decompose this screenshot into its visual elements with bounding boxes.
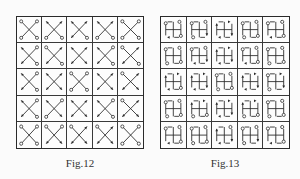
x-cross-glyph-icon (42, 96, 66, 121)
figure-12 (16, 16, 144, 149)
x-cross-glyph-icon (118, 96, 143, 121)
fig12-cell (93, 43, 118, 69)
fig12-cell (42, 122, 67, 148)
fig12-cell (42, 96, 67, 122)
fig12-cell (42, 17, 67, 43)
figure-13-grid (160, 16, 290, 149)
plus-with-frame-glyph-icon (212, 122, 237, 148)
fig13-cell (212, 122, 238, 148)
fig13-cell (263, 122, 289, 148)
plus-with-frame-glyph-icon (161, 69, 186, 94)
plus-with-frame-glyph-icon (263, 69, 289, 94)
fig13-cell (238, 69, 264, 95)
x-cross-glyph-icon (118, 122, 143, 148)
fig12-cell (93, 122, 118, 148)
x-cross-glyph-icon (93, 96, 117, 121)
x-cross-glyph-icon (118, 17, 143, 42)
fig12-cell (67, 122, 92, 148)
x-cross-glyph-icon (67, 43, 91, 68)
figure-12-caption: Fig.12 (16, 157, 144, 169)
plus-with-frame-glyph-icon (263, 43, 289, 68)
fig12-cell (67, 96, 92, 122)
plus-with-frame-glyph-icon (161, 43, 186, 68)
fig13-cell (212, 17, 238, 43)
plus-with-frame-glyph-icon (161, 96, 186, 121)
x-cross-glyph-icon (17, 69, 41, 94)
plus-with-frame-glyph-icon (263, 122, 289, 148)
fig13-cell (263, 17, 289, 43)
fig12-cell (93, 96, 118, 122)
x-cross-glyph-icon (93, 17, 117, 42)
x-cross-glyph-icon (93, 122, 117, 148)
plus-with-frame-glyph-icon (161, 122, 186, 148)
plus-with-frame-glyph-icon (187, 43, 212, 68)
fig12-cell (67, 43, 92, 69)
fig12-cell (17, 17, 42, 43)
fig12-cell (42, 43, 67, 69)
fig13-cell (187, 17, 213, 43)
fig12-cell (17, 69, 42, 95)
plus-with-frame-glyph-icon (161, 17, 186, 42)
fig13-cell (212, 69, 238, 95)
plus-with-frame-glyph-icon (212, 69, 237, 94)
x-cross-glyph-icon (42, 69, 66, 94)
plus-with-frame-glyph-icon (187, 96, 212, 121)
x-cross-glyph-icon (67, 69, 91, 94)
x-cross-glyph-icon (17, 43, 41, 68)
fig13-cell (187, 69, 213, 95)
fig12-cell (17, 96, 42, 122)
fig13-cell (263, 69, 289, 95)
fig13-cell (161, 122, 187, 148)
fig12-cell (118, 96, 143, 122)
fig12-cell (118, 43, 143, 69)
fig13-cell (238, 17, 264, 43)
fig13-cell (161, 43, 187, 69)
fig13-cell (161, 96, 187, 122)
plus-with-frame-glyph-icon (263, 96, 289, 121)
fig13-cell (187, 43, 213, 69)
plus-with-frame-glyph-icon (238, 17, 263, 42)
x-cross-glyph-icon (118, 43, 143, 68)
x-cross-glyph-icon (67, 122, 91, 148)
fig12-cell (93, 69, 118, 95)
fig13-cell (238, 96, 264, 122)
fig13-cell (212, 43, 238, 69)
x-cross-glyph-icon (17, 96, 41, 121)
figure-12-grid (16, 16, 144, 149)
x-cross-glyph-icon (67, 96, 91, 121)
fig13-cell (238, 122, 264, 148)
x-cross-glyph-icon (17, 122, 41, 148)
fig13-cell (212, 96, 238, 122)
figure-13-caption: Fig.13 (160, 157, 290, 169)
plus-with-frame-glyph-icon (212, 96, 237, 121)
fig12-cell (118, 17, 143, 43)
x-cross-glyph-icon (42, 122, 66, 148)
plus-with-frame-glyph-icon (212, 17, 237, 42)
fig12-cell (67, 17, 92, 43)
plus-with-frame-glyph-icon (238, 43, 263, 68)
plus-with-frame-glyph-icon (263, 17, 289, 42)
fig12-cell (17, 122, 42, 148)
fig13-cell (238, 43, 264, 69)
x-cross-glyph-icon (118, 69, 143, 94)
plus-with-frame-glyph-icon (187, 122, 212, 148)
fig13-cell (161, 17, 187, 43)
fig12-cell (67, 69, 92, 95)
fig12-cell (17, 43, 42, 69)
plus-with-frame-glyph-icon (212, 43, 237, 68)
fig12-cell (42, 69, 67, 95)
figure-13 (160, 16, 290, 149)
fig13-cell (187, 122, 213, 148)
fig13-cell (263, 96, 289, 122)
plus-with-frame-glyph-icon (187, 69, 212, 94)
fig13-cell (263, 43, 289, 69)
x-cross-glyph-icon (93, 69, 117, 94)
fig13-cell (161, 69, 187, 95)
fig12-cell (93, 17, 118, 43)
fig12-cell (118, 122, 143, 148)
plus-with-frame-glyph-icon (238, 122, 263, 148)
plus-with-frame-glyph-icon (238, 69, 263, 94)
fig12-cell (118, 69, 143, 95)
plus-with-frame-glyph-icon (187, 17, 212, 42)
fig13-cell (187, 96, 213, 122)
